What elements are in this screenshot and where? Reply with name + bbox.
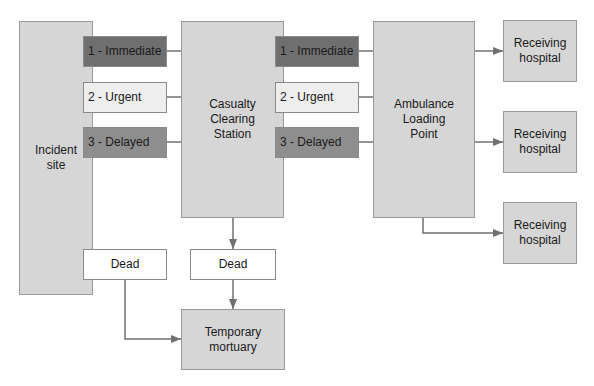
dead-label: Dead [111,257,140,272]
hospital-label: Receiving hospital [514,218,567,248]
casualty-clearing-station-node: Casualty Clearing Station [181,21,284,218]
incident-triage-immediate: 1 - Immediate [83,36,167,67]
incident-site-node: Incident site [19,21,93,295]
ambulance-loading-point-node: Ambulance Loading Point [373,21,475,218]
hospital-label: Receiving hospital [514,36,567,66]
triage-delayed-label: 3 - Delayed [280,135,341,150]
triage-delayed-label: 3 - Delayed [88,135,149,150]
ccs-triage-urgent: 2 - Urgent [275,82,359,113]
receiving-hospital-3: Receiving hospital [503,202,577,264]
ccs-dead-box: Dead [190,249,276,280]
incident-triage-urgent: 2 - Urgent [83,82,167,113]
ccs-label: Casualty Clearing Station [209,97,256,142]
ccs-triage-immediate: 1 - Immediate [275,36,359,67]
hospital-label: Receiving hospital [514,127,567,157]
triage-immediate-label: 1 - Immediate [88,44,161,59]
incident-dead-box: Dead [83,249,167,280]
triage-immediate-label: 1 - Immediate [280,44,353,59]
receiving-hospital-1: Receiving hospital [503,20,577,82]
mortuary-label: Temporary mortuary [205,325,262,355]
triage-urgent-label: 2 - Urgent [280,90,333,105]
incident-site-label: Incident site [35,143,77,173]
incident-triage-delayed: 3 - Delayed [83,127,167,158]
ccs-triage-delayed: 3 - Delayed [275,127,359,158]
dead-label: Dead [219,257,248,272]
receiving-hospital-2: Receiving hospital [503,111,577,173]
triage-urgent-label: 2 - Urgent [88,90,141,105]
temporary-mortuary-node: Temporary mortuary [181,309,285,370]
alp-label: Ambulance Loading Point [394,97,454,142]
